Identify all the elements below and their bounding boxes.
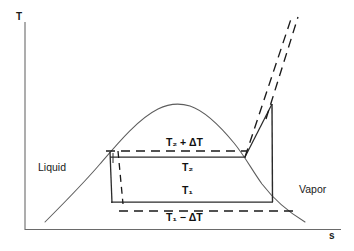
isotherm-t1-label: T₁: [182, 184, 193, 196]
ts-diagram-page: T s Liquid Vapor T₂ + ΔT T₂ T₁ T₁ − ΔT: [0, 0, 354, 251]
axes-group: [25, 22, 341, 230]
right-dashed-outer-line: [266, 17, 298, 119]
right-dashed-inner-line: [245, 19, 291, 157]
isotherm-t1-minus-dt-label: T₁ − ΔT: [166, 211, 203, 223]
right-vapor-group: [245, 104, 273, 202]
saturation-dome-curve: [45, 104, 305, 222]
y-axis-label: T: [16, 11, 22, 22]
left-expansion-group: [110, 151, 123, 204]
left-expansion-dashed-line: [118, 151, 123, 204]
isotherm-t2-plus-dt-label: T₂ + ΔT: [166, 136, 203, 148]
vapor-region-label: Vapor: [299, 183, 326, 195]
isotherm-t2-label: T₂: [182, 161, 193, 173]
x-axis-label: s: [329, 230, 335, 241]
left-expansion-solid-line: [110, 152, 112, 203]
right-compression-solid-line: [272, 104, 273, 202]
liquid-region-label: Liquid: [38, 161, 66, 173]
saturation-dome-group: [45, 104, 305, 222]
